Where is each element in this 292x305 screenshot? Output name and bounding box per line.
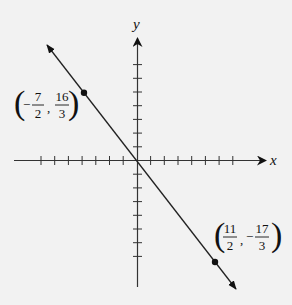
point-a-dot (81, 90, 87, 96)
y-denominator: 3 (259, 238, 266, 253)
y-numerator: 17 (256, 221, 270, 236)
y-axis-label: y (131, 16, 140, 32)
comma: , (240, 232, 243, 247)
point-a-label: ( − 7 2 , 16 3 ) (14, 84, 79, 122)
x-denominator: 2 (35, 106, 42, 121)
right-paren: ) (271, 216, 282, 254)
y-axis: y (131, 16, 142, 287)
y-denominator: 3 (59, 106, 66, 121)
x-axis-label: x (269, 152, 277, 168)
x-numerator: 11 (224, 221, 237, 236)
point-b-label: ( 11 2 , − 17 3 ) (214, 216, 282, 254)
x-axis: x (14, 152, 277, 168)
line-graph (47, 45, 236, 289)
y-numerator: 16 (56, 89, 70, 104)
right-paren: ) (68, 84, 79, 122)
comma: , (47, 100, 50, 115)
y-sign: − (246, 229, 253, 244)
point-b-dot (212, 259, 218, 265)
coordinate-plane: x y ( − 7 2 , (0, 0, 292, 305)
x-sign: − (23, 97, 30, 112)
x-numerator: 7 (35, 89, 42, 104)
x-denominator: 2 (227, 238, 234, 253)
